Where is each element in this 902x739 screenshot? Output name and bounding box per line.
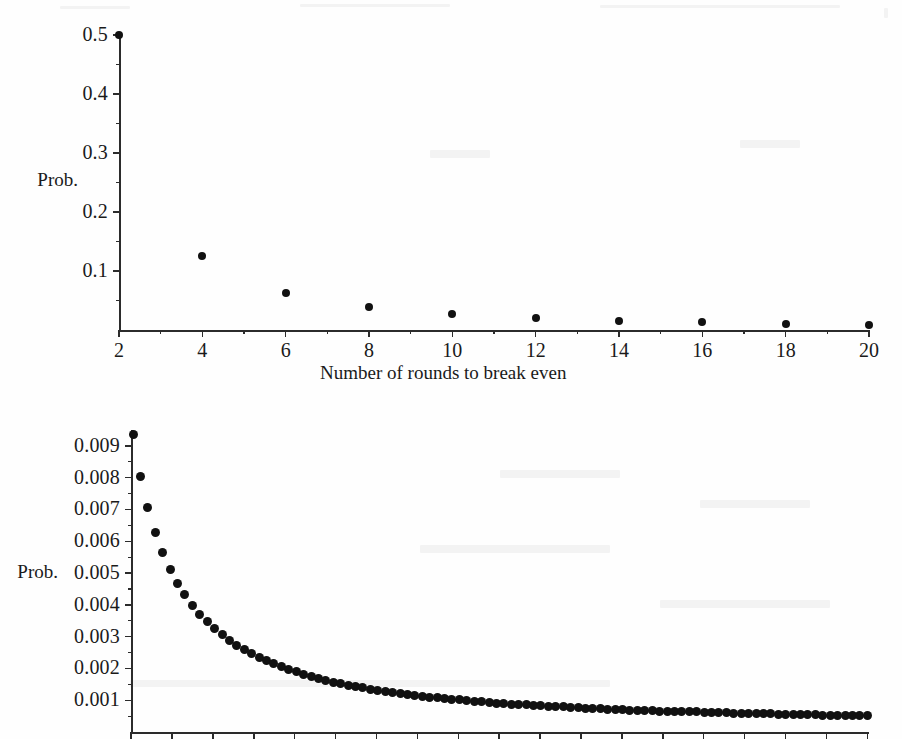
chart-top-y-tick-label: 0.1 xyxy=(40,260,108,280)
chart-top-y-tick-minor xyxy=(116,241,120,242)
chart-bottom-y-tick-major xyxy=(125,509,132,511)
chart-top-x-tick-major xyxy=(452,330,454,337)
chart-top-y-tick-minor xyxy=(116,64,120,65)
chart-top-x-tick-minor xyxy=(410,330,411,334)
chart-bottom-x-tick-major xyxy=(785,732,787,739)
chart-bottom-data-point xyxy=(151,528,160,537)
chart-bottom-y-tick-major xyxy=(125,445,132,447)
chart-top-x-tick-minor xyxy=(160,330,161,334)
chart-bottom-x-tick-major xyxy=(744,732,746,739)
chart-bottom-y-tick-major xyxy=(125,668,132,670)
chart-bottom-x-axis-line xyxy=(131,732,869,734)
chart-bottom-x-tick-major xyxy=(335,732,337,739)
chart-top-data-point xyxy=(365,303,373,311)
chart-bottom-scatter: Prob. 0.0010.0020.0030.0040.0050.0060.00… xyxy=(0,400,902,739)
chart-top-x-tick-label: 16 xyxy=(680,340,724,360)
chart-top-x-tick-label: 2 xyxy=(97,340,141,360)
chart-bottom-x-tick-major xyxy=(130,732,132,739)
chart-bottom-x-tick-major xyxy=(253,732,255,739)
chart-bottom-x-tick-major xyxy=(171,732,173,739)
chart-top-x-tick-label: 12 xyxy=(514,340,558,360)
chart-bottom-y-tick-label: 0.004 xyxy=(18,594,120,614)
chart-bottom-x-tick-major xyxy=(294,732,296,739)
chart-top-x-tick-label: 18 xyxy=(764,340,808,360)
chart-top-x-tick-major xyxy=(702,330,704,337)
chart-top-y-tick-major xyxy=(113,270,120,272)
chart-top-data-point xyxy=(782,320,790,328)
chart-top-y-tick-minor xyxy=(116,182,120,183)
chart-top-x-tick-label: 6 xyxy=(264,340,308,360)
chart-bottom-x-tick-major xyxy=(498,732,500,739)
chart-top-y-tick-label: 0.2 xyxy=(40,201,108,221)
chart-top-x-tick-minor xyxy=(493,330,494,334)
chart-top-y-tick-label: 0.3 xyxy=(40,142,108,162)
chart-bottom-y-tick-major xyxy=(125,541,132,543)
chart-bottom-y-axis-line xyxy=(131,430,133,733)
chart-bottom-y-tick-minor xyxy=(128,620,132,621)
chart-bottom-data-point xyxy=(173,579,182,588)
chart-bottom-y-tick-label: 0.008 xyxy=(18,467,120,487)
chart-bottom-y-tick-major xyxy=(125,477,132,479)
chart-bottom-x-tick-major xyxy=(212,732,214,739)
chart-top-data-point xyxy=(615,317,623,325)
chart-bottom-data-point xyxy=(166,565,175,574)
chart-bottom-y-tick-major xyxy=(125,572,132,574)
chart-top-x-tick-minor xyxy=(577,330,578,334)
chart-bottom-x-tick-major xyxy=(826,732,828,739)
chart-top-y-tick-major xyxy=(113,211,120,213)
chart-top-x-tick-major xyxy=(285,330,287,337)
chart-bottom-x-tick-major xyxy=(458,732,460,739)
chart-bottom-data-point xyxy=(195,610,204,619)
chart-bottom-x-tick-major xyxy=(580,732,582,739)
chart-bottom-data-point xyxy=(129,430,138,439)
chart-bottom-y-tick-label: 0.007 xyxy=(18,498,120,518)
chart-bottom-x-tick-major xyxy=(621,732,623,739)
chart-top-data-point xyxy=(282,289,290,297)
chart-bottom-y-tick-major xyxy=(125,700,132,702)
chart-bottom-y-tick-minor xyxy=(128,557,132,558)
chart-top-x-tick-minor xyxy=(827,330,828,334)
chart-top-x-tick-major xyxy=(868,330,870,337)
chart-bottom-data-point xyxy=(143,503,152,512)
chart-bottom-y-tick-label: 0.001 xyxy=(18,689,120,709)
chart-bottom-y-tick-label: 0.006 xyxy=(18,530,120,550)
chart-top-y-axis-title: Prob. xyxy=(0,170,78,190)
chart-bottom-data-point xyxy=(158,548,167,557)
chart-bottom-y-tick-minor xyxy=(128,493,132,494)
chart-bottom-x-tick-major xyxy=(417,732,419,739)
chart-top-x-tick-label: 10 xyxy=(430,340,474,360)
page-canvas: Prob. Number of rounds to break even 0.1… xyxy=(0,0,902,739)
chart-top-y-tick-minor xyxy=(116,300,120,301)
chart-bottom-y-tick-minor xyxy=(128,684,132,685)
chart-top-data-point xyxy=(448,310,456,318)
chart-top-scatter: Prob. Number of rounds to break even 0.1… xyxy=(0,0,902,380)
chart-bottom-data-point xyxy=(136,472,145,481)
chart-top-x-axis-title: Number of rounds to break even xyxy=(320,363,566,383)
chart-top-x-tick-major xyxy=(202,330,204,337)
chart-top-x-tick-major xyxy=(618,330,620,337)
chart-top-y-tick-major xyxy=(113,152,120,154)
chart-bottom-y-tick-label: 0.003 xyxy=(18,626,120,646)
chart-bottom-x-tick-major xyxy=(376,732,378,739)
chart-top-x-tick-minor xyxy=(743,330,744,334)
chart-bottom-y-tick-major xyxy=(125,604,132,606)
chart-top-x-tick-minor xyxy=(660,330,661,334)
chart-top-data-point xyxy=(198,252,206,260)
chart-bottom-y-tick-minor xyxy=(128,525,132,526)
chart-top-y-tick-major xyxy=(113,93,120,95)
chart-top-y-tick-minor xyxy=(116,123,120,124)
chart-bottom-y-tick-minor xyxy=(128,588,132,589)
chart-bottom-x-tick-major xyxy=(703,732,705,739)
chart-top-x-tick-label: 8 xyxy=(347,340,391,360)
chart-bottom-y-tick-minor xyxy=(128,461,132,462)
chart-bottom-y-tick-label: 0.005 xyxy=(18,562,120,582)
chart-top-x-tick-minor xyxy=(243,330,244,334)
chart-bottom-y-tick-minor xyxy=(128,652,132,653)
chart-bottom-data-point xyxy=(188,601,197,610)
chart-top-x-tick-major xyxy=(535,330,537,337)
chart-top-x-tick-major xyxy=(118,330,120,337)
chart-bottom-y-tick-major xyxy=(125,636,132,638)
chart-bottom-y-tick-label: 0.009 xyxy=(18,435,120,455)
chart-top-data-point xyxy=(115,31,123,39)
chart-bottom-x-tick-major xyxy=(662,732,664,739)
